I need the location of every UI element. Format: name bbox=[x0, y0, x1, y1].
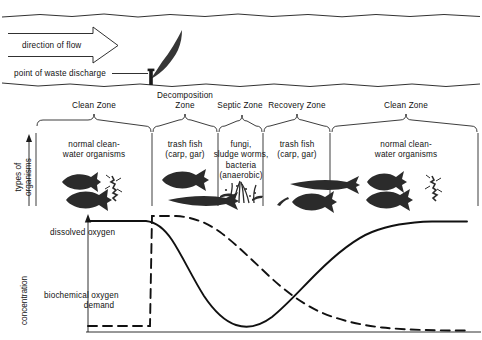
organism-group-clean-left bbox=[62, 172, 122, 211]
zone-label-recovery: Recovery Zone bbox=[255, 101, 339, 111]
waste-discharge-label: point of waste discharge bbox=[14, 69, 114, 79]
axis-label-types-of-organisms: types of organisms bbox=[14, 158, 35, 196]
zone-braces bbox=[37, 114, 477, 132]
organism-group-clean-right bbox=[366, 171, 442, 211]
zone-label-clean-right: Clean Zone bbox=[363, 101, 449, 111]
organism-label-clean-right: normal clean- water organisms bbox=[361, 140, 451, 161]
curve-label-dissolved-oxygen: dissolved oxygen bbox=[50, 228, 160, 238]
curve-label-bod-line2: demand bbox=[44, 301, 154, 311]
axis-label-concentration: concentration bbox=[20, 276, 30, 325]
flow-direction-label: direction of flow bbox=[22, 41, 112, 51]
curve-label-bod-line1: biochemical oxygen bbox=[44, 291, 154, 301]
pollution-plume bbox=[151, 19, 482, 84]
organism-label-recovery: trash fish (carp, gar) bbox=[260, 140, 334, 161]
diagram-root: direction of flow point of waste dischar… bbox=[0, 0, 482, 340]
zone-label-clean-left: Clean Zone bbox=[51, 101, 137, 111]
river-bank-top bbox=[2, 14, 480, 17]
organism-label-clean-left: normal clean- water organisms bbox=[50, 140, 138, 161]
organism-group-septic bbox=[220, 181, 263, 203]
organism-group-recovery bbox=[277, 176, 360, 213]
